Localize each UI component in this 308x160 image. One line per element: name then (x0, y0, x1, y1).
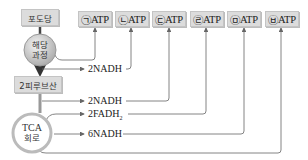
atp-box-1: ㉠ATP (78, 11, 112, 27)
atp-mark-5: ㉤ (230, 12, 240, 27)
atp-mark-6: ㉥ (268, 12, 278, 27)
tca-nadh-label: 6NADH (87, 128, 123, 140)
pyruvate-box: 2피루브산 (14, 76, 62, 93)
atp-box-4: ㉣ATP (190, 11, 224, 27)
atp-box-3: ㉢ATP (152, 11, 186, 27)
glycolysis-node: 해당 과정 (24, 34, 56, 66)
tca-fadh2-label: 2FADH2 (87, 108, 123, 124)
atp-mark-1: ㉠ (81, 12, 91, 27)
pyruvate-nadh-label: 2NADH (87, 95, 123, 107)
atp-mark-2: ㉡ (118, 12, 128, 27)
atp-mark-4: ㉣ (193, 12, 203, 27)
atp-box-6: ㉥ATP (265, 11, 299, 27)
glycolysis-label-2: 과정 (32, 50, 48, 60)
atp-box-2: ㉡ATP (115, 11, 149, 27)
tca-label-1: TCA (22, 122, 42, 133)
glucose-label: 포도당 (28, 12, 52, 24)
tca-cycle-node: TCA 회로 (15, 116, 49, 150)
pyruvate-label: 2피루브산 (19, 79, 56, 91)
tca-label-2: 회로 (24, 133, 40, 144)
glycolysis-label-1: 해당 (32, 40, 48, 50)
atp-mark-3: ㉢ (155, 12, 165, 27)
atp-box-5: ㉤ATP (227, 11, 261, 27)
glycolysis-nadh-label: 2NADH (87, 63, 123, 75)
glucose-box: 포도당 (21, 9, 59, 26)
